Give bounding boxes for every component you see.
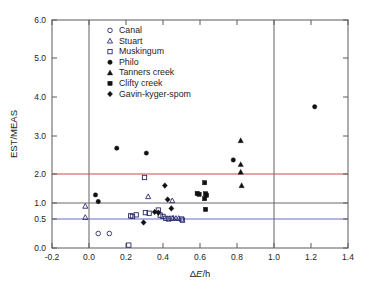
data-point — [312, 105, 316, 109]
chart-background — [0, 0, 367, 286]
legend-label: Tanners creek — [119, 67, 175, 77]
data-point — [202, 181, 206, 185]
legend-label: Stuart — [119, 36, 143, 46]
chart-svg: -0.20.00.20.40.60.81.01.21.4 0.00.51.02.… — [0, 0, 367, 286]
legend-label: Philo — [119, 57, 139, 67]
y-tick-label: 3.0 — [34, 131, 46, 141]
legend-marker-filled-square-icon — [108, 81, 112, 85]
legend-label: Gavin-kyger-spom — [119, 89, 191, 99]
x-title-slash-h: /h — [202, 268, 210, 279]
x-tick-label: 1.0 — [268, 252, 280, 262]
x-tick-label: 0.4 — [157, 252, 169, 262]
legend-item-gavin-kyger-spom: Gavin-kyger-spom — [107, 89, 190, 99]
x-axis-tick-labels: -0.20.00.20.40.60.81.01.21.4 — [45, 252, 355, 262]
x-tick-label: 1.2 — [305, 252, 317, 262]
data-point — [93, 193, 97, 197]
y-tick-label: 0.5 — [34, 214, 46, 224]
data-point — [202, 196, 206, 200]
x-tick-label: 1.4 — [342, 252, 354, 262]
data-point — [231, 158, 235, 162]
y-tick-label: 4.0 — [34, 92, 46, 102]
data-point — [203, 207, 207, 211]
legend-label: Canal — [119, 25, 142, 35]
y-tick-label: 6.0 — [34, 15, 46, 25]
y-axis-title: EST/MEAS — [8, 110, 19, 158]
x-tick-label: 0.2 — [120, 252, 132, 262]
legend-label: Clifty creek — [119, 78, 163, 88]
x-tick-label: -0.2 — [45, 252, 60, 262]
legend-marker-filled-circle-icon — [108, 60, 112, 64]
data-point — [144, 151, 148, 155]
data-point — [115, 146, 119, 150]
y-tick-label: 2.0 — [34, 169, 46, 179]
legend-label: Muskingum — [119, 46, 164, 56]
x-tick-label: 0.8 — [231, 252, 243, 262]
y-tick-label: 5.0 — [34, 53, 46, 63]
data-point — [96, 199, 100, 203]
x-tick-label: 0.0 — [83, 252, 95, 262]
y-tick-label: 1.0 — [34, 198, 46, 208]
y-tick-label: 0.0 — [34, 243, 46, 253]
scatter-chart-figure: -0.20.00.20.40.60.81.01.21.4 0.00.51.02.… — [0, 0, 367, 286]
x-tick-label: 0.6 — [194, 252, 206, 262]
data-point — [197, 192, 201, 196]
x-axis-title: ΔE/h — [190, 268, 211, 279]
